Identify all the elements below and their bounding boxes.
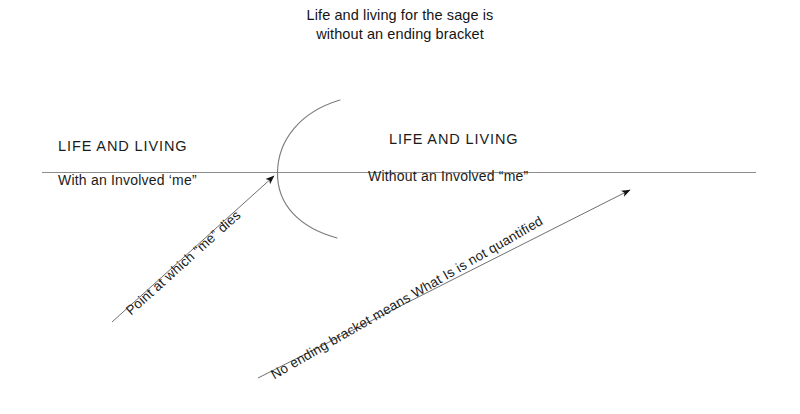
diagram-graphics <box>0 0 800 414</box>
left-side-subtitle: With an Involved ‘me” <box>58 172 197 188</box>
opening-bracket-arc <box>277 100 340 238</box>
left-side-heading: LIFE AND LIVING <box>58 138 188 154</box>
right-side-heading: LIFE AND LIVING <box>389 131 519 147</box>
right-side-subtitle: Without an Involved “me” <box>368 168 528 184</box>
diagram-canvas: Life and living for the sage is without … <box>0 0 800 414</box>
